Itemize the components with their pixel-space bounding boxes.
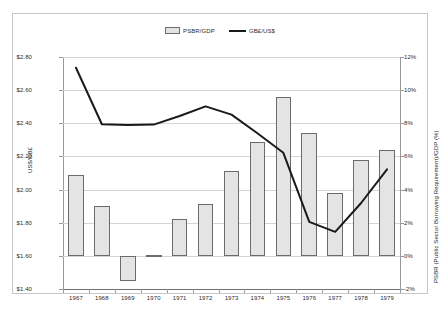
x-axis-tick-label: 1978 bbox=[354, 295, 368, 301]
x-axis-tick-label: 1976 bbox=[302, 295, 316, 301]
x-axis-tick-label: 1972 bbox=[199, 295, 213, 301]
x-axis-tick-label: 1967 bbox=[69, 295, 83, 301]
x-axis-tick-label: 1970 bbox=[147, 295, 161, 301]
x-axis-tick-label: 1977 bbox=[328, 295, 342, 301]
x-axis-tick-label: 1975 bbox=[276, 295, 290, 301]
chart-container: PSBR/GDP GB£/US$ US$/GB£ PSBR (Public Se… bbox=[12, 13, 428, 294]
x-axis-tick-label: 1969 bbox=[121, 295, 135, 301]
x-axis-tick-label: 1979 bbox=[380, 295, 394, 301]
line-series-exchange-rate bbox=[13, 14, 429, 295]
right-axis-title: PSBR (Public Sector Borrowing Requiremen… bbox=[433, 130, 439, 283]
x-axis-tick-label: 1974 bbox=[251, 295, 265, 301]
line-path bbox=[76, 68, 387, 232]
x-axis-tick-label: 1973 bbox=[225, 295, 239, 301]
x-axis-tick-label: 1968 bbox=[95, 295, 109, 301]
x-axis-tick-label: 1971 bbox=[173, 295, 187, 301]
